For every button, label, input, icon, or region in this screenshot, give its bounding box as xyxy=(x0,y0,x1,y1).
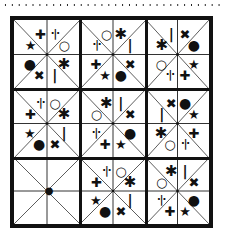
puzzle-block[interactable]: ✚·|·○✱★●✖| xyxy=(14,89,80,158)
dot-icon[interactable]: ● xyxy=(124,126,136,140)
bar-icon[interactable]: | xyxy=(62,126,67,140)
asterisk-icon[interactable]: ✱ xyxy=(155,37,168,52)
asterisk-icon[interactable]: ✱ xyxy=(58,106,71,121)
divide-icon[interactable]: ·|· xyxy=(92,40,100,50)
puzzle-block[interactable]: ○✱|✖·|·✚★● xyxy=(80,89,146,158)
divide-icon[interactable]: ·|· xyxy=(166,70,174,80)
bar-icon[interactable]: | xyxy=(52,68,57,82)
puzzle-block[interactable]: ★✚·|·○●✖|✱ xyxy=(14,20,80,89)
dot-icon[interactable]: ● xyxy=(99,204,111,218)
puzzle-grid: ★✚·|·○●✖|✱ ·|·○✱|✚★●✖ ✱|✖●○·|·✚★ ✚·|·○✱★… xyxy=(10,16,213,228)
block-diagonals xyxy=(146,158,209,224)
cross-icon[interactable]: ✖ xyxy=(166,96,177,109)
block-diagonals xyxy=(80,158,146,224)
puzzle-block[interactable]: ○✱|✖·|·✚★● xyxy=(146,158,209,224)
cursor-icon: ● xyxy=(45,186,54,196)
divide-icon[interactable]: ·|· xyxy=(181,139,189,149)
star-icon[interactable]: ★ xyxy=(99,69,111,82)
block-divider xyxy=(145,20,148,224)
puzzle-block[interactable]: |✖●★✱○·|·✚ xyxy=(146,89,209,158)
cross-icon[interactable]: ✖ xyxy=(188,175,199,188)
block-divider xyxy=(79,20,82,224)
cross-icon[interactable]: ✖ xyxy=(49,138,60,151)
plus-icon[interactable]: ✚ xyxy=(35,27,46,40)
asterisk-icon[interactable]: ✱ xyxy=(58,57,71,72)
dot-icon[interactable]: ● xyxy=(33,137,45,151)
puzzle-block[interactable]: ✚·|·○✱★●✖| xyxy=(80,158,146,224)
cross-icon[interactable]: ✖ xyxy=(115,204,126,217)
bar-icon[interactable]: | xyxy=(159,107,164,121)
star-icon[interactable]: ★ xyxy=(188,58,200,71)
circle-icon[interactable]: ○ xyxy=(101,27,112,40)
block-diagonals xyxy=(14,89,80,158)
divide-icon[interactable]: ·|· xyxy=(102,166,110,176)
bar-icon[interactable]: | xyxy=(182,164,187,178)
plus-icon[interactable]: ✚ xyxy=(188,127,199,140)
cross-icon[interactable]: ✖ xyxy=(125,107,136,120)
circle-icon[interactable]: ○ xyxy=(164,138,175,151)
bar-icon[interactable]: | xyxy=(128,38,133,52)
star-icon[interactable]: ★ xyxy=(188,107,200,120)
plus-icon[interactable]: ✚ xyxy=(100,138,111,151)
block-divider xyxy=(14,88,209,91)
circle-icon[interactable]: ○ xyxy=(58,38,69,51)
block-diagonals xyxy=(80,20,146,89)
asterisk-icon[interactable]: ✱ xyxy=(165,164,178,179)
bar-icon[interactable]: | xyxy=(169,27,174,41)
block-divider xyxy=(14,157,209,160)
bar-icon[interactable]: | xyxy=(118,96,123,110)
block-diagonals xyxy=(80,89,146,158)
plus-icon[interactable]: ✚ xyxy=(164,204,175,217)
cross-icon[interactable]: ✖ xyxy=(34,69,45,82)
bar-icon[interactable]: | xyxy=(128,193,133,207)
dotted-separator xyxy=(2,4,224,6)
cross-icon[interactable]: ✖ xyxy=(125,58,136,71)
asterisk-icon[interactable]: ✱ xyxy=(115,26,128,41)
puzzle-block[interactable]: ● xyxy=(14,158,80,224)
asterisk-icon[interactable]: ✱ xyxy=(124,174,137,189)
block-diagonals xyxy=(146,20,209,89)
puzzle-block[interactable]: ·|·○✱|✚★●✖ xyxy=(80,20,146,89)
puzzle-block[interactable]: ✱|✖●○·|·✚★ xyxy=(146,20,209,89)
asterisk-icon[interactable]: ✱ xyxy=(100,95,113,110)
plus-icon[interactable]: ✚ xyxy=(91,175,102,188)
dot-icon[interactable]: ● xyxy=(188,193,200,207)
dot-icon[interactable]: ● xyxy=(188,38,200,52)
plus-icon[interactable]: ✚ xyxy=(25,107,36,120)
divide-icon[interactable]: ·|· xyxy=(36,98,44,108)
